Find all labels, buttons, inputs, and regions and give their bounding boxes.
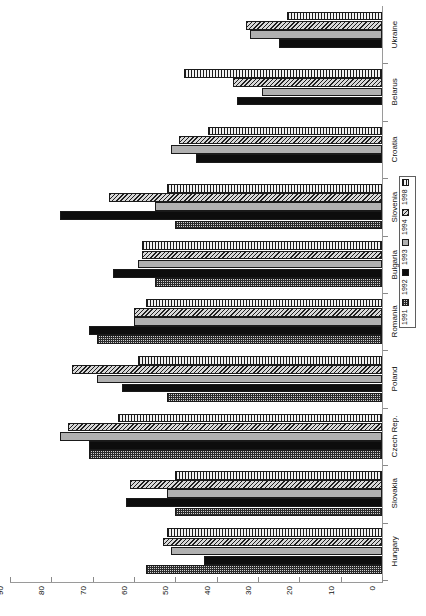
value-tick-label: 30: [245, 586, 271, 595]
value-tick-label: 0: [369, 586, 395, 590]
bar-bulgaria-1998: [142, 241, 382, 250]
bar-slovenia-1991: [175, 221, 382, 230]
category-tick: [383, 408, 388, 409]
category-tick: [383, 178, 388, 179]
bar-czechrep-1991: [89, 450, 382, 459]
value-tick: [10, 577, 11, 582]
bar-belarus-1993: [262, 88, 382, 97]
category-label: Ukraine: [390, 6, 399, 63]
bar-belarus-1992: [237, 97, 382, 106]
category-label: Poland: [390, 350, 399, 407]
bar-czechrep-1993: [60, 432, 382, 441]
legend-item-1991: 1991: [400, 297, 415, 327]
bar-czechrep-1998: [118, 414, 383, 423]
bar-belarus-1998: [184, 69, 382, 78]
category-label: Belarus: [390, 63, 399, 120]
value-tick-label: 90: [0, 586, 23, 595]
bar-ukraine-1992: [279, 39, 382, 48]
bar-poland-1994: [72, 365, 382, 374]
bar-hungary-1992: [204, 556, 382, 565]
category-label: Slovenia: [390, 178, 399, 235]
bar-czechrep-1994: [68, 423, 382, 432]
chart-canvas: 9080706050403020100 HungarySlovakiaCzech…: [0, 0, 426, 616]
bar-slovenia-1994: [109, 193, 382, 202]
value-tick: [175, 577, 176, 582]
value-tick: [134, 577, 135, 582]
bar-ukraine-1994: [246, 21, 382, 30]
bar-croatia-1994: [179, 136, 382, 145]
category-label: Croatia: [390, 121, 399, 178]
category-axis-line: [382, 6, 383, 582]
bar-poland-1993: [97, 375, 382, 384]
bar-poland-1992: [122, 384, 382, 393]
value-tick-label: 10: [328, 586, 354, 595]
legend-label: 1993: [401, 249, 414, 265]
bar-slovenia-1993: [155, 202, 382, 211]
bar-slovenia-1992: [60, 211, 382, 220]
legend-item-1992: 1992: [400, 267, 415, 297]
bar-slovakia-1992: [126, 498, 382, 507]
category-label: Bulgaria: [390, 236, 399, 293]
bar-poland-1998: [138, 356, 382, 365]
value-tick-label: 60: [121, 586, 147, 595]
value-tick: [258, 577, 259, 582]
value-tick-label: 40: [204, 586, 230, 595]
legend-item-1993: 1993: [400, 237, 415, 267]
category-tick: [383, 580, 388, 581]
category-tick: [383, 523, 388, 524]
chart-legend: 19981994199319921991: [399, 176, 416, 328]
bar-romania-1992: [89, 326, 382, 335]
category-tick: [383, 350, 388, 351]
bar-slovakia-1993: [167, 489, 382, 498]
bar-hungary-1991: [146, 565, 382, 574]
bar-ukraine-1998: [287, 12, 382, 21]
category-tick: [383, 465, 388, 466]
legend-swatch-checker: [402, 299, 409, 306]
category-label: Hungary: [390, 523, 399, 580]
bar-bulgaria-1991: [155, 278, 382, 287]
bar-slovakia-1994: [130, 480, 382, 489]
bar-hungary-1994: [163, 538, 382, 547]
category-tick: [383, 236, 388, 237]
value-tick-label: 70: [80, 586, 106, 595]
legend-item-1998: 1998: [400, 177, 415, 207]
bar-croatia-1992: [196, 154, 382, 163]
category-label: Romania: [390, 293, 399, 350]
value-tick: [93, 577, 94, 582]
bar-ukraine-1993: [250, 30, 382, 39]
category-tick: [383, 63, 388, 64]
plot-area: 9080706050403020100 HungarySlovakiaCzech…: [0, 0, 426, 616]
bar-bulgaria-1994: [142, 251, 382, 260]
bar-hungary-1998: [167, 528, 382, 537]
bar-poland-1991: [167, 393, 382, 402]
category-tick: [383, 293, 388, 294]
value-tick-label: 20: [286, 586, 312, 595]
bar-slovakia-1991: [175, 508, 382, 517]
legend-swatch-vertical-stripes: [402, 179, 409, 186]
legend-label: 1991: [401, 309, 414, 325]
legend-swatch-solid-gray: [402, 239, 409, 246]
category-tick: [383, 121, 388, 122]
legend-label: 1994: [401, 219, 414, 235]
bar-slovakia-1998: [175, 471, 382, 480]
bar-hungary-1993: [171, 547, 382, 556]
bar-slovenia-1998: [167, 184, 382, 193]
legend-label: 1992: [401, 279, 414, 295]
bar-czechrep-1992: [89, 441, 382, 450]
category-label: Czech Rep.: [390, 408, 399, 465]
bar-romania-1998: [146, 299, 382, 308]
value-tick: [217, 577, 218, 582]
bar-romania-1994: [134, 308, 382, 317]
value-tick: [51, 577, 52, 582]
bar-croatia-1993: [171, 145, 382, 154]
value-axis-line: [10, 582, 383, 583]
bar-bulgaria-1993: [138, 260, 382, 269]
legend-label: 1998: [401, 189, 414, 205]
legend-swatch-solid-black: [402, 269, 409, 276]
legend-item-1994: 1994: [400, 207, 415, 237]
bar-romania-1993: [134, 317, 382, 326]
bar-belarus-1994: [233, 78, 382, 87]
legend-swatch-diagonal-hatch: [402, 209, 409, 216]
bar-bulgaria-1992: [113, 269, 382, 278]
value-tick-label: 80: [38, 586, 64, 595]
